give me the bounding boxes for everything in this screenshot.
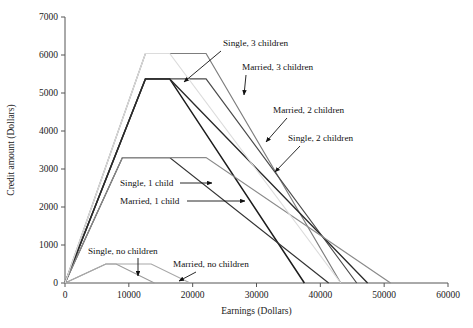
annotation-label: Married, 3 children [242, 62, 314, 72]
eitc-credit-line-chart: 0100020003000400050006000700001000020000… [0, 0, 473, 328]
x-axis-title: Earnings (Dollars) [221, 306, 291, 317]
annotation-arrow [275, 146, 300, 172]
annotations-group: Single, 3 childrenMarried, 3 childrenMar… [88, 38, 353, 281]
y-tick-label: 0 [53, 278, 58, 288]
y-tick-label: 5000 [39, 88, 58, 98]
y-tick-label: 6000 [39, 50, 58, 60]
y-axis-title: Credit amount (Dollars) [6, 104, 17, 195]
annotation-label: Married, 2 children [273, 105, 345, 115]
annotation-arrow [266, 118, 287, 142]
annotation-label: Married, no children [173, 259, 249, 269]
series-line-married-no-children [65, 264, 190, 283]
x-tick-label: 50000 [372, 290, 396, 300]
axes-group: 0100020003000400050006000700001000020000… [39, 12, 460, 300]
x-tick-label: 60000 [436, 290, 460, 300]
y-tick-label: 4000 [39, 126, 58, 136]
chart-container: 0100020003000400050006000700001000020000… [0, 0, 473, 328]
annotation-label: Single, no children [88, 246, 158, 256]
annotation-label: Single, 3 children [223, 38, 288, 48]
x-tick-label: 10000 [117, 290, 141, 300]
annotation-label: Single, 1 child [120, 178, 174, 188]
y-tick-label: 7000 [39, 12, 58, 22]
annotation-label: Married, 1 child [120, 196, 180, 206]
x-tick-label: 20000 [181, 290, 205, 300]
annotation-arrow [184, 51, 221, 82]
x-tick-label: 0 [63, 290, 68, 300]
y-tick-label: 3000 [39, 164, 58, 174]
annotation-arrow [244, 75, 246, 95]
y-tick-label: 1000 [39, 240, 58, 250]
x-tick-label: 40000 [308, 290, 332, 300]
x-tick-label: 30000 [245, 290, 269, 300]
annotation-arrow [179, 272, 196, 281]
y-tick-label: 2000 [39, 202, 58, 212]
annotation-label: Single, 2 children [288, 133, 353, 143]
series-line-single-no-children [65, 264, 154, 283]
